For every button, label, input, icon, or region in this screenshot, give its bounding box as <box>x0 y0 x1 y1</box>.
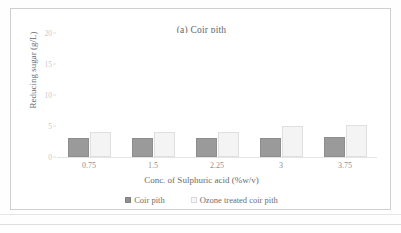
y-axis-tick-label: 5 <box>48 122 52 131</box>
x-axis-tick-label: 1.5 <box>121 161 185 170</box>
y-axis-tick-label: 10 <box>45 91 53 100</box>
y-axis-tick-label: 15 <box>45 60 53 69</box>
legend-item: Ozone treated coir pith <box>191 195 278 205</box>
bar <box>196 138 217 157</box>
x-axis-tick-label: 0.75 <box>57 161 121 170</box>
bar <box>282 126 303 157</box>
x-axis-tick-label: 3 <box>249 161 313 170</box>
bar <box>90 132 111 157</box>
x-axis-title: Conc. of Sulphuric acid (%w/v) <box>11 175 392 185</box>
y-axis-tick-mark <box>53 33 56 34</box>
legend-swatch-icon <box>125 197 131 203</box>
figure-frame: (a) Coir pith Reducing sugar (g/L) 05101… <box>10 8 391 210</box>
x-axis-tick-label: 2.25 <box>185 161 249 170</box>
x-axis-line <box>57 157 377 158</box>
legend-label: Coir pith <box>134 195 164 205</box>
legend-label: Ozone treated coir pith <box>200 195 278 205</box>
bar <box>68 138 89 157</box>
x-axis-ticks: 0.751.52.2533.75 <box>57 161 377 170</box>
bar-group <box>249 33 313 157</box>
y-axis-tick-mark <box>53 126 56 127</box>
page-separator-rule <box>0 224 401 225</box>
bar-groups <box>57 33 377 157</box>
bar <box>132 138 153 157</box>
y-axis-tick-label: 0 <box>48 153 52 162</box>
plot-area: 05101520 <box>57 33 377 157</box>
bar <box>324 137 345 157</box>
bar <box>260 138 281 157</box>
chart-legend: Coir pithOzone treated coir pith <box>11 195 392 205</box>
y-axis-tick-mark <box>53 157 56 158</box>
y-axis-tick-label: 20 <box>45 29 53 38</box>
bar-group <box>185 33 249 157</box>
page-separator-rule <box>0 214 401 215</box>
y-axis-tick-mark <box>53 64 56 65</box>
scanned-figure-page: (a) Coir pith Reducing sugar (g/L) 05101… <box>0 0 401 233</box>
legend-swatch-icon <box>191 197 197 203</box>
bar <box>346 125 367 157</box>
y-axis-title: Reducing sugar (g/L) <box>28 10 38 130</box>
x-axis-tick-label: 3.75 <box>313 161 377 170</box>
bar-group <box>121 33 185 157</box>
legend-item: Coir pith <box>125 195 164 205</box>
bar <box>218 132 239 157</box>
bar-group <box>57 33 121 157</box>
bar-group <box>313 33 377 157</box>
bar <box>154 132 175 157</box>
y-axis-tick-mark <box>53 95 56 96</box>
